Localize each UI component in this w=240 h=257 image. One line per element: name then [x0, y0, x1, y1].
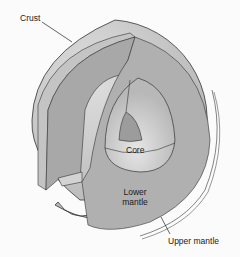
earth-layers-diagram: Crust Core Lower mantle Upper mantle — [0, 0, 240, 257]
lower-mantle-label-line2: mantle — [120, 198, 150, 207]
upper-mantle-label: Upper mantle — [168, 237, 219, 246]
lower-mantle-label-line1: Lower — [120, 188, 150, 197]
crust-label: Crust — [20, 14, 40, 23]
earth-cutaway-illustration — [0, 0, 240, 257]
crust-leader-line — [42, 22, 72, 42]
core-label: Core — [126, 146, 144, 155]
